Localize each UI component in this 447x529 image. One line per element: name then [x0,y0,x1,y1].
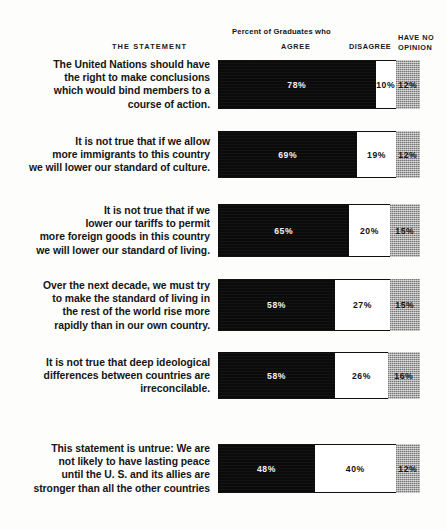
statement-line: course of action. [8,98,210,111]
bar-segment-value: 27% [353,300,372,310]
bar-segment-no-opinion: 12% [396,444,420,493]
column-header-disagree: DISAGREE [349,42,391,51]
statement-line: more foreign goods in this country [8,230,210,243]
column-header-no-opinion-line2: OPINION [398,43,432,52]
stacked-bar: 78%10%12% [218,60,420,109]
statement-text: It is not true that if we allowmore immi… [8,135,210,175]
column-header-no-opinion: HAVE NO OPINION [398,33,434,52]
bar-segment-no-opinion: 12% [396,131,420,178]
statement-line: The United Nations should have [8,58,210,71]
statement-text: It is not true that deep ideologicaldiff… [8,356,210,396]
statement-line: we will lower our standard of living. [8,244,210,257]
statement-text: It is not true that if welower our tarif… [8,204,210,257]
statement-text: This statement is untrue: We arenot like… [8,442,210,495]
bar-segment-no-opinion: 12% [396,60,420,109]
bar-segment-agree: 78% [218,60,376,109]
chart-page: Percent of Graduates who THE STATEMENT A… [0,0,447,529]
bar-segment-agree: 69% [218,131,357,178]
chart-row: It is not true that if we allowmore immi… [0,131,447,178]
statement-line: This statement is untrue: We are [8,442,210,455]
chart-row: The United Nations should havethe right … [0,60,447,109]
bar-segment-value: 69% [278,150,297,160]
bar-segment-disagree: 10% [376,60,396,109]
statement-line: It is not true that if we allow [8,135,210,148]
statement-line: more immigrants to this country [8,148,210,161]
chart-title: Percent of Graduates who [232,27,331,36]
chart-row: Over the next decade, we must tryto make… [0,279,447,331]
bar-segment-value: 10% [376,80,395,90]
bar-segment-value: 48% [257,464,276,474]
bar-segment-disagree: 19% [357,131,395,178]
bar-segment-value: 12% [398,464,417,474]
statement-line: not likely to have lasting peace [8,455,210,468]
bar-segment-value: 15% [395,226,414,236]
bar-segment-no-opinion: 15% [390,204,420,257]
chart-row: It is not true that if welower our tarif… [0,204,447,257]
column-header-agree: AGREE [281,42,310,51]
bar-segment-agree: 48% [218,444,315,493]
chart-row: This statement is untrue: We arenot like… [0,444,447,493]
stacked-bar: 48%40%12% [218,444,420,493]
statement-line: until the U. S. and its allies are [8,468,210,481]
statement-line: the right to make conclusions [8,71,210,84]
statement-line: the rest of the world rise more [8,305,210,318]
statement-line: to make the standard of living in [8,292,210,305]
column-header-statement: THE STATEMENT [112,42,187,51]
bar-segment-value: 19% [367,150,386,160]
statement-line: Over the next decade, we must try [8,279,210,292]
statement-line: It is not true that if we [8,204,210,217]
statement-text: Over the next decade, we must tryto make… [8,279,210,332]
stacked-bar: 58%26%16% [218,352,420,399]
stacked-bar: 65%20%15% [218,204,420,257]
bar-segment-agree: 58% [218,352,335,399]
column-header-no-opinion-line1: HAVE NO [398,33,434,42]
bar-segment-value: 20% [360,226,379,236]
statement-line: differences between countries are [8,369,210,382]
bar-segment-value: 40% [346,464,365,474]
bar-segment-no-opinion: 16% [388,352,420,399]
bar-segment-agree: 58% [218,279,335,331]
statement-line: It is not true that deep ideological [8,356,210,369]
bar-segment-value: 15% [395,300,414,310]
statement-line: rapidly than in our own country. [8,319,210,332]
bar-segment-value: 26% [352,371,371,381]
chart-row: It is not true that deep ideologicaldiff… [0,352,447,399]
bar-segment-value: 78% [287,80,306,90]
statement-line: which would bind members to a [8,84,210,97]
bar-segment-disagree: 26% [335,352,388,399]
stacked-bar: 58%27%15% [218,279,420,331]
statement-line: stronger than all the other countries [8,482,210,495]
statement-text: The United Nations should havethe right … [8,58,210,111]
bar-segment-value: 58% [267,300,286,310]
bar-segment-value: 58% [267,371,286,381]
stacked-bar: 69%19%12% [218,131,420,178]
bar-segment-value: 65% [274,226,293,236]
statement-line: we will lower our standard of culture. [8,161,210,174]
bar-segment-value: 16% [394,371,413,381]
bar-segment-disagree: 40% [315,444,396,493]
bar-segment-agree: 65% [218,204,349,257]
bar-segment-no-opinion: 15% [390,279,420,331]
bar-segment-value: 12% [398,80,417,90]
bar-segment-disagree: 20% [349,204,389,257]
bar-segment-disagree: 27% [335,279,390,331]
statement-line: lower our tariffs to permit [8,217,210,230]
statement-line: irreconcilable. [8,382,210,395]
bar-segment-value: 12% [398,150,417,160]
